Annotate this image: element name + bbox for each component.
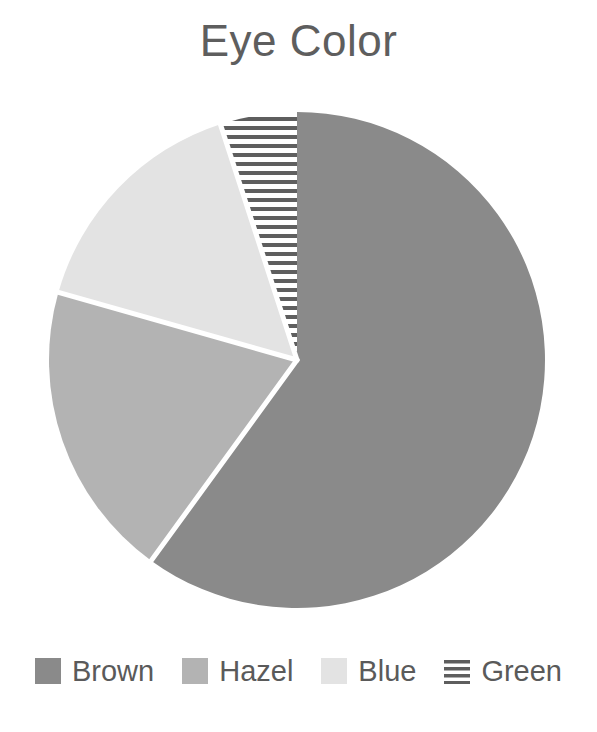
pie-svg — [0, 0, 597, 640]
legend-swatch-hazel-icon — [182, 658, 208, 684]
legend-item-brown[interactable]: Brown — [35, 656, 154, 686]
legend-swatch-brown-icon — [35, 658, 61, 684]
legend-item-hazel[interactable]: Hazel — [182, 656, 293, 686]
legend-swatch-green-stripes-icon — [444, 658, 470, 684]
pie-chart-figure: Eye Color — [0, 0, 597, 732]
legend-label-blue: Blue — [358, 656, 416, 686]
legend-label-hazel: Hazel — [219, 656, 293, 686]
legend-item-green[interactable]: Green — [444, 656, 562, 686]
stripes-pattern-icon — [444, 658, 470, 684]
pie-chart-plot-area — [0, 0, 597, 640]
chart-legend: Brown Hazel Blue Green — [0, 648, 597, 694]
legend-swatch-blue-icon — [321, 658, 347, 684]
legend-label-green: Green — [481, 656, 562, 686]
legend-label-brown: Brown — [72, 656, 154, 686]
legend-item-blue[interactable]: Blue — [321, 656, 416, 686]
